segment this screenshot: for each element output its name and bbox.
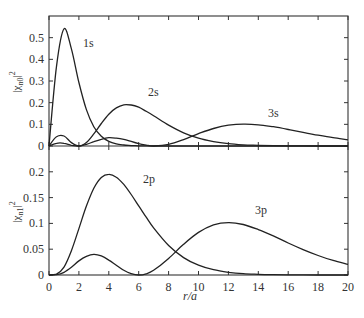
curve-1s: [49, 28, 348, 146]
series-labels: 1s2s3s2p3p: [83, 36, 279, 217]
upper-y-axis-label: |χn0|2: [8, 71, 25, 92]
y-tick-label: 0.2: [29, 165, 44, 179]
curve-2p: [49, 174, 348, 275]
x-tick-label: 16: [282, 280, 294, 294]
x-tick-label: 12: [222, 280, 234, 294]
x-axis-label: r/a: [183, 289, 197, 303]
x-tick-label: 20: [342, 280, 354, 294]
curve-2s: [49, 105, 348, 146]
series-label-2p: 2p: [143, 172, 155, 186]
axis-ticks: 00.10.20.30.40.500.050.10.150.2024681012…: [23, 16, 354, 294]
x-tick-label: 0: [46, 280, 52, 294]
x-tick-label: 14: [252, 280, 264, 294]
x-tick-label: 8: [166, 280, 172, 294]
series-label-2s: 2s: [148, 85, 159, 99]
y-tick-label: 0.15: [23, 191, 44, 205]
y-tick-label: 0.05: [23, 242, 44, 256]
y-tick-label: 0.2: [29, 96, 44, 110]
y-tick-label: 0.1: [29, 117, 44, 131]
curve-3p: [49, 223, 348, 275]
x-tick-label: 6: [136, 280, 142, 294]
y-tick-label: 0.5: [29, 31, 44, 45]
y-tick-label: 0.3: [29, 74, 44, 88]
x-tick-label: 18: [312, 280, 324, 294]
x-tick-label: 2: [76, 280, 82, 294]
y-tick-label: 0: [38, 268, 44, 282]
y-tick-label: 0.4: [29, 52, 44, 66]
y-tick-label: 0: [38, 139, 44, 153]
orbital-probability-chart: 00.10.20.30.40.500.050.10.150.2024681012…: [0, 0, 364, 318]
x-tick-label: 4: [106, 280, 112, 294]
series-label-1s: 1s: [83, 36, 94, 50]
curves: [49, 28, 348, 275]
series-label-3s: 3s: [268, 106, 279, 120]
series-label-3p: 3p: [255, 203, 267, 217]
y-tick-label: 0.1: [29, 216, 44, 230]
